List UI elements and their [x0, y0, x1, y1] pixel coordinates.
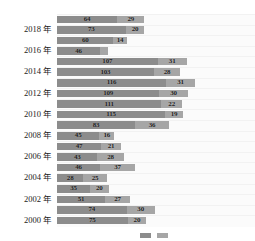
chart-row: 10328 — [0, 67, 255, 78]
chart-legend — [140, 230, 255, 240]
chart-row: 4721 — [0, 141, 255, 152]
stacked-bar[interactable]: 6014 — [57, 37, 127, 45]
chart-row: 10930 — [0, 88, 255, 99]
chart-row: 6014 — [0, 35, 255, 46]
stacked-bar[interactable]: 10930 — [57, 90, 188, 98]
bar-segment-series-1[interactable]: 107 — [57, 58, 158, 66]
bar-segment-series-1[interactable]: 64 — [57, 16, 117, 24]
bar-value-label: 16 — [104, 132, 111, 139]
bar-segment-series-1[interactable]: 46 — [57, 164, 100, 172]
bar-segment-series-2[interactable]: 25 — [83, 174, 107, 182]
bar-value-label: 43 — [74, 154, 81, 161]
stacked-bar[interactable]: 11122 — [57, 100, 182, 108]
chart-row: 11631 — [0, 78, 255, 89]
chart-row: 11122 — [0, 99, 255, 110]
stacked-bar[interactable]: 11519 — [57, 111, 183, 119]
bar-value-label: 28 — [67, 175, 74, 182]
bar-segment-series-2[interactable]: 14 — [113, 37, 126, 45]
bar-segment-series-1[interactable]: 60 — [57, 37, 113, 45]
bar-segment-series-2[interactable]: 20 — [90, 185, 109, 193]
chart-row: 2825 — [0, 173, 255, 184]
chart-row: 7520 — [0, 215, 255, 226]
stacked-bar[interactable]: 4516 — [57, 132, 114, 140]
legend-swatch-series-2 — [157, 233, 168, 238]
bar-value-label: 20 — [134, 217, 141, 224]
bar-value-label: 73 — [88, 26, 95, 33]
bar-segment-series-2[interactable]: 30 — [127, 206, 155, 214]
bar-segment-series-1[interactable]: 109 — [57, 90, 159, 98]
bar-value-label: 27 — [114, 196, 121, 203]
stacked-bar-chart: 2018 年2016 年2014 年2012 年2010 年2008 年2006… — [0, 0, 255, 241]
chart-row: 4328 — [0, 152, 255, 163]
stacked-bar[interactable]: 8336 — [57, 121, 169, 129]
stacked-bar[interactable]: 6429 — [57, 16, 144, 24]
stacked-bar[interactable]: 4637 — [57, 164, 135, 172]
bar-segment-series-2[interactable]: 21 — [101, 143, 121, 151]
bar-segment-series-2[interactable]: 28 — [154, 68, 180, 76]
bar-segment-series-1[interactable]: 46 — [57, 47, 100, 55]
bar-value-label: 21 — [108, 143, 115, 150]
stacked-bar[interactable]: 7430 — [57, 206, 155, 214]
bar-value-label: 107 — [102, 58, 112, 65]
bar-value-label: 35 — [70, 185, 77, 192]
bar-segment-series-1[interactable]: 45 — [57, 132, 99, 140]
bar-value-label: 30 — [170, 90, 177, 97]
bar-segment-series-1[interactable]: 75 — [57, 217, 128, 225]
bar-segment-series-1[interactable]: 28 — [57, 174, 83, 182]
bar-value-label: 29 — [127, 16, 134, 23]
bar-segment-series-2[interactable]: 20 — [128, 217, 147, 225]
stacked-bar[interactable]: 7320 — [57, 26, 144, 34]
bar-value-label: 20 — [132, 26, 139, 33]
bar-segment-series-1[interactable]: 43 — [57, 153, 97, 161]
bar-segment-series-2[interactable]: 19 — [165, 111, 183, 119]
stacked-bar[interactable]: 3520 — [57, 185, 109, 193]
stacked-bar[interactable]: 4328 — [57, 153, 124, 161]
bar-value-label: 74 — [88, 206, 95, 213]
bar-value-label: 116 — [107, 79, 117, 86]
bar-value-label: 111 — [105, 101, 114, 108]
bar-segment-series-2[interactable]: 22 — [161, 100, 182, 108]
stacked-bar[interactable]: 11631 — [57, 79, 195, 87]
bar-value-label: 37 — [114, 164, 121, 171]
chart-row: 4637 — [0, 162, 255, 173]
bar-segment-series-2[interactable]: 16 — [99, 132, 114, 140]
bar-segment-series-1[interactable]: 111 — [57, 100, 161, 108]
stacked-bar[interactable]: 46 — [57, 47, 108, 55]
bar-value-label: 28 — [107, 154, 114, 161]
stacked-bar[interactable]: 2825 — [57, 174, 107, 182]
stacked-bar[interactable]: 5127 — [57, 196, 130, 204]
bar-segment-series-2[interactable]: 28 — [97, 153, 123, 161]
bar-segment-series-1[interactable]: 35 — [57, 185, 90, 193]
bar-segment-series-2[interactable] — [100, 47, 108, 55]
bar-value-label: 46 — [75, 164, 82, 171]
bar-segment-series-1[interactable]: 47 — [57, 143, 101, 151]
bar-segment-series-2[interactable]: 29 — [117, 16, 144, 24]
bar-segment-series-2[interactable]: 27 — [105, 196, 130, 204]
chart-row: 3520 — [0, 184, 255, 195]
plot-area: 6429732060144610731103281163110930111221… — [0, 14, 255, 226]
stacked-bar[interactable]: 4721 — [57, 143, 121, 151]
bar-segment-series-1[interactable]: 115 — [57, 111, 165, 119]
stacked-bar[interactable]: 7520 — [57, 217, 146, 225]
chart-row: 10731 — [0, 56, 255, 67]
chart-row: 4516 — [0, 131, 255, 142]
bar-value-label: 25 — [92, 175, 99, 182]
stacked-bar[interactable]: 10731 — [57, 58, 187, 66]
chart-row: 5127 — [0, 194, 255, 205]
bar-segment-series-1[interactable]: 73 — [57, 26, 126, 34]
bar-segment-series-1[interactable]: 51 — [57, 196, 105, 204]
bar-segment-series-2[interactable]: 30 — [159, 90, 187, 98]
bar-value-label: 31 — [169, 58, 176, 65]
bar-value-label: 31 — [177, 79, 184, 86]
bar-value-label: 83 — [93, 122, 100, 129]
bar-segment-series-1[interactable]: 103 — [57, 68, 154, 76]
bar-segment-series-1[interactable]: 83 — [57, 121, 135, 129]
bar-segment-series-2[interactable]: 31 — [166, 79, 195, 87]
bar-segment-series-2[interactable]: 37 — [100, 164, 135, 172]
bar-segment-series-2[interactable]: 20 — [126, 26, 145, 34]
bar-segment-series-2[interactable]: 36 — [135, 121, 169, 129]
bar-segment-series-1[interactable]: 74 — [57, 206, 127, 214]
bar-segment-series-1[interactable]: 116 — [57, 79, 166, 87]
bar-segment-series-2[interactable]: 31 — [158, 58, 187, 66]
stacked-bar[interactable]: 10328 — [57, 68, 180, 76]
